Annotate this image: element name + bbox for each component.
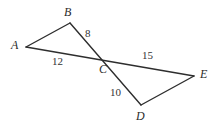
vertex-label-d: D: [136, 110, 145, 122]
length-label-ac: 12: [52, 56, 63, 67]
vertex-label-c: C: [99, 63, 107, 75]
figure-canvas: [0, 0, 217, 127]
segment-ab: [26, 23, 70, 47]
vertex-label-e: E: [200, 68, 207, 80]
segment-de: [141, 76, 194, 105]
length-label-ce: 15: [142, 50, 153, 61]
geometry-figure: A B C D E 8 12 15 10: [0, 0, 217, 127]
vertex-label-a: A: [11, 39, 18, 51]
length-label-cd: 10: [110, 87, 121, 98]
vertex-label-b: B: [64, 6, 71, 18]
length-label-bc: 8: [85, 28, 91, 39]
